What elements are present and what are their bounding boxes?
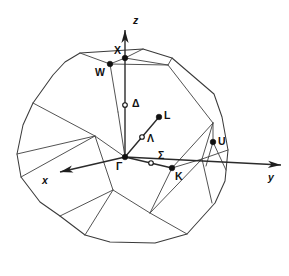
point-label-gamma: Γ	[116, 160, 123, 172]
zone-edge-18	[17, 136, 95, 154]
point-label-w: W	[95, 66, 105, 78]
point-marker-x	[122, 55, 128, 61]
point-label-lambda: Λ	[147, 132, 154, 144]
point-marker-delta	[123, 103, 128, 108]
zone-edge-13	[206, 142, 213, 166]
point-marker-sigma	[149, 161, 154, 166]
brillouin-zone-figure: ΓXWΔLΛΣKU zyx	[0, 0, 289, 276]
zone-edge-6	[95, 136, 125, 157]
point-marker-u	[210, 139, 216, 145]
zone-edge-3	[110, 64, 118, 112]
brillouin-zone-svg: ΓXWΔLΛΣKU zyx	[0, 0, 289, 276]
point-marker-lambda	[140, 135, 145, 140]
point-marker-w	[107, 61, 113, 67]
zone-edge-17	[21, 136, 95, 177]
point-label-l: L	[164, 109, 171, 121]
point-label-delta: Δ	[132, 97, 140, 109]
point-label-u: U	[218, 135, 226, 147]
zone-silhouette	[17, 49, 228, 243]
axis-label-x: x	[41, 174, 49, 186]
point-label-x: X	[114, 44, 121, 56]
zone-edge-9	[150, 168, 172, 213]
point-marker-gamma	[122, 154, 128, 160]
zone-edge-14	[202, 150, 228, 159]
point-label-k: K	[175, 170, 183, 182]
point-marker-k	[169, 165, 175, 171]
zone-edge-12	[202, 123, 213, 203]
coordinate-axes	[60, 30, 281, 173]
axis-label-y: y	[267, 171, 275, 183]
zone-outline	[17, 49, 228, 243]
point-marker-l	[156, 114, 162, 120]
zone-interior-edges	[17, 49, 228, 235]
zone-edge-7	[118, 112, 125, 157]
point-label-sigma: Σ	[158, 149, 164, 161]
axis-label-z: z	[132, 14, 139, 26]
